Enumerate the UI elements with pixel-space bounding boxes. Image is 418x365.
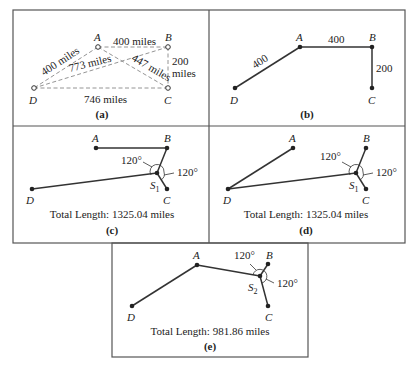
label-c: C xyxy=(362,194,370,206)
label-a: A xyxy=(93,31,101,43)
node-s2 xyxy=(258,274,263,279)
panel-d: A B C D S1 120° 120° Total Length: 1325.… xyxy=(222,132,397,237)
node-b xyxy=(165,146,170,151)
node-a xyxy=(291,146,296,151)
angle-label-1: 120° xyxy=(121,154,142,166)
angle-label-1: 120° xyxy=(234,249,255,261)
node-a xyxy=(94,146,99,151)
caption-b: (b) xyxy=(300,108,314,121)
node-s1 xyxy=(354,171,359,176)
label-d: D xyxy=(229,94,238,106)
label-b: B xyxy=(165,31,172,43)
node-d xyxy=(233,86,238,91)
label-b: B xyxy=(164,132,171,144)
edge-ad xyxy=(228,148,293,189)
angle-label-2: 120° xyxy=(277,277,298,289)
angle-label-1: 120° xyxy=(320,150,341,162)
caption-a: (a) xyxy=(96,108,109,121)
total-length: Total Length: 1325.04 miles xyxy=(50,208,175,220)
caption-d: (d) xyxy=(299,224,313,237)
label-s1: S1 xyxy=(150,179,160,194)
label-c: C xyxy=(368,94,376,106)
angle-leader-1 xyxy=(342,162,351,167)
edge-bs1 xyxy=(157,148,167,173)
label-bc-2: miles xyxy=(172,67,196,79)
node-a xyxy=(96,45,101,50)
label-d: D xyxy=(25,194,34,206)
node-s1 xyxy=(155,171,160,176)
label-dc: 746 miles xyxy=(84,93,127,105)
label-bc: 200 xyxy=(376,62,393,74)
panel-c: A B C D S1 120° 120° Total Length: 1325.… xyxy=(25,132,198,237)
node-a xyxy=(298,45,303,50)
label-s-sub: 2 xyxy=(254,287,258,296)
node-c xyxy=(364,187,369,192)
steiner-tree-figure: A B C D 400 miles 400 miles 773 miles 44… xyxy=(0,0,418,365)
label-b: B xyxy=(266,249,273,261)
node-b xyxy=(364,146,369,151)
edge-ad xyxy=(132,265,197,306)
node-c xyxy=(266,304,271,309)
node-d xyxy=(226,187,231,192)
node-d xyxy=(32,86,37,91)
node-c xyxy=(165,187,170,192)
node-c xyxy=(370,86,375,91)
label-d: D xyxy=(28,94,37,106)
label-d: D xyxy=(126,311,135,323)
label-bc-1: 200 xyxy=(172,55,189,67)
label-s1: S1 xyxy=(349,179,359,194)
label-c: C xyxy=(265,311,273,323)
label-d: D xyxy=(222,194,231,206)
angle-label-2: 120° xyxy=(177,166,198,178)
label-s-sub: 1 xyxy=(156,185,160,194)
node-a xyxy=(195,263,200,268)
edge-bs1 xyxy=(356,148,366,173)
total-length: Total Length: 1325.04 miles xyxy=(244,208,369,220)
total-length: Total Length: 981.86 miles xyxy=(151,325,270,337)
label-b: B xyxy=(369,31,376,43)
node-d xyxy=(130,304,135,309)
label-ab: 400 miles xyxy=(113,35,156,47)
angle-label-2: 120° xyxy=(376,166,397,178)
label-c: C xyxy=(163,194,171,206)
label-b: B xyxy=(363,132,370,144)
angle-leader-2 xyxy=(164,173,174,175)
edge-s2c xyxy=(260,276,268,306)
node-d xyxy=(30,187,35,192)
label-a: A xyxy=(295,31,303,43)
label-c: C xyxy=(164,94,172,106)
node-b xyxy=(370,45,375,50)
angle-leader-2 xyxy=(363,173,373,175)
edge-as2 xyxy=(197,265,260,276)
caption-c: (c) xyxy=(106,224,119,237)
panel-b: A B C D 400 400 200 (b) xyxy=(229,31,393,121)
label-a: A xyxy=(288,132,296,144)
panel-a: A B C D 400 miles 400 miles 773 miles 44… xyxy=(28,31,196,121)
node-b xyxy=(266,262,271,267)
node-c xyxy=(166,86,171,91)
label-a: A xyxy=(91,132,99,144)
edge-s1d xyxy=(32,173,157,189)
angle-leader-2 xyxy=(266,279,274,283)
label-ab: 400 xyxy=(328,33,345,45)
label-a: A xyxy=(192,249,200,261)
node-b xyxy=(166,45,171,50)
panel-e: A B C D S2 120° 120° Total Length: 981.8… xyxy=(126,249,298,353)
angle-leader-1 xyxy=(250,264,256,270)
label-s-sub: 1 xyxy=(355,185,359,194)
angle-leader-1 xyxy=(143,162,152,167)
edge-ad xyxy=(235,47,300,88)
caption-e: (e) xyxy=(204,340,217,353)
label-s2: S2 xyxy=(248,281,258,296)
edge-s1d xyxy=(228,173,356,189)
